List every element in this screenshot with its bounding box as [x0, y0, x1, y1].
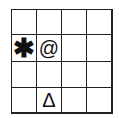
delta-icon: Δ [36, 87, 62, 113]
cell-r2-c3 [86, 61, 112, 87]
cell-r2-c1 [36, 61, 62, 87]
cell-r0-c1 [36, 9, 62, 35]
cell-r0-c0 [11, 9, 37, 35]
asterisk-icon: ✱ [11, 34, 37, 62]
at-sign-icon: @ [36, 34, 62, 62]
cell-r0-c3 [86, 9, 112, 35]
cell-r3-c2 [61, 87, 87, 113]
cell-r1-c3 [86, 34, 112, 62]
cell-r2-c0 [11, 61, 37, 87]
cell-r3-c0 [11, 87, 37, 113]
cell-r0-c2 [61, 9, 87, 35]
grid-board: ✱ @ Δ [11, 9, 113, 114]
cell-r3-c3 [86, 87, 112, 113]
cell-r2-c2 [61, 61, 87, 87]
cell-r1-c2 [61, 34, 87, 62]
